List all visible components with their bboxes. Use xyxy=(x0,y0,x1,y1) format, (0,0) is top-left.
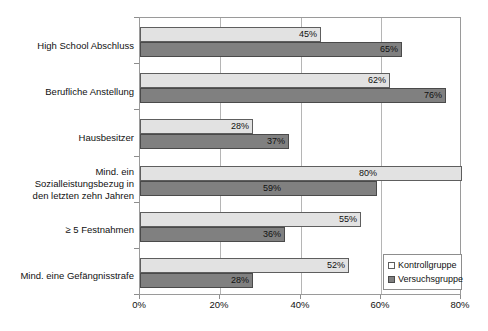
category-label-text: Berufliche Anstellung xyxy=(45,86,134,97)
category-label-0: High School Abschluss xyxy=(0,40,134,52)
bar-value-label: 45% xyxy=(140,27,321,42)
x-tick-label-0: 0% xyxy=(132,299,146,311)
category-axis: High School Abschluss Berufliche Anstell… xyxy=(0,17,134,295)
category-label-text: High School Abschluss xyxy=(37,40,134,51)
category-label-text: Mind. ein Sozialleistungsbezug in den le… xyxy=(33,166,134,201)
bar-value-label: 59% xyxy=(140,181,285,196)
category-label-2: Hausbesitzer xyxy=(0,132,134,144)
legend-label: Kontrollgruppe xyxy=(398,260,457,270)
x-tick-label-1: 20% xyxy=(209,299,228,311)
x-tick-label-3: 60% xyxy=(370,299,389,311)
bar-value-label: 28% xyxy=(140,119,253,134)
bar-group-3: 80% 59% xyxy=(140,157,460,203)
category-label-4: ≥ 5 Festnahmen xyxy=(0,224,134,236)
category-label-1: Berufliche Anstellung xyxy=(0,86,134,98)
category-label-3: Mind. ein Sozialleistungsbezug in den le… xyxy=(0,166,134,202)
category-label-text: Mind. eine Gefängnisstrafe xyxy=(20,270,134,281)
bar-value-label: 62% xyxy=(140,73,390,88)
category-label-text: ≥ 5 Festnahmen xyxy=(65,224,134,235)
bar-value-label: 65% xyxy=(140,42,402,57)
legend: Kontrollgruppe Versuchsgruppe xyxy=(383,254,462,290)
x-tick-label-4: 80% xyxy=(450,299,469,311)
category-label-5: Mind. eine Gefängnisstrafe xyxy=(0,270,134,282)
plot-area: 45% 65% 62% 76% 28% xyxy=(139,17,461,295)
bar-value-label: 80% xyxy=(140,166,381,181)
category-label-text: Hausbesitzer xyxy=(79,132,134,143)
x-tick-label-2: 40% xyxy=(290,299,309,311)
bar-chart: High School Abschluss Berufliche Anstell… xyxy=(0,0,488,331)
bar-value-label: 55% xyxy=(140,212,361,227)
x-axis: 0% 20% 40% 60% 80% xyxy=(139,299,461,313)
legend-swatch-icon xyxy=(388,262,395,269)
bar-group-4: 55% 36% xyxy=(140,203,460,249)
bar-value-label: 28% xyxy=(140,273,253,288)
bar-value-label: 36% xyxy=(140,227,285,242)
bar-value-label: 76% xyxy=(140,88,446,103)
legend-label: Versuchsgruppe xyxy=(398,274,463,284)
bar-value-label: 37% xyxy=(140,134,289,149)
bar-value-label: 52% xyxy=(140,258,349,273)
bar-group-2: 28% 37% xyxy=(140,110,460,157)
legend-item-versuchsgruppe[interactable]: Versuchsgruppe xyxy=(388,272,457,286)
legend-item-kontrollgruppe[interactable]: Kontrollgruppe xyxy=(388,258,457,272)
legend-swatch-icon xyxy=(388,276,395,283)
bar-group-0: 45% 65% xyxy=(140,18,460,64)
bar-group-1: 62% 76% xyxy=(140,64,460,110)
